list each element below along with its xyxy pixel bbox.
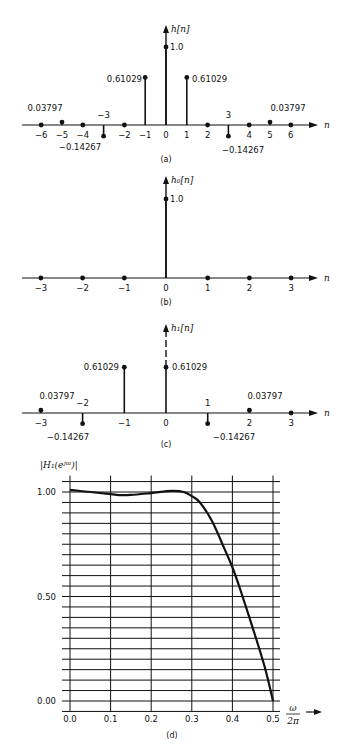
x-axis-label-numerator: ω [289, 703, 297, 713]
stem-marker [39, 408, 44, 413]
value-label: 0.61029 [192, 74, 227, 84]
stem-marker [268, 120, 273, 125]
x-axis-label: n [324, 408, 330, 418]
value-label: −0.14267 [59, 142, 101, 152]
x-axis-label-denominator: 2π [286, 716, 300, 726]
x-tick-label: 0.0 [63, 714, 77, 724]
value-label: 0.03797 [247, 391, 282, 401]
panel-caption: (b) [160, 298, 171, 307]
y-axis-label: h₀[n] [171, 175, 194, 185]
value-label: 1.0 [170, 194, 184, 204]
y-axis-arrow-icon [163, 324, 169, 332]
stem-marker [39, 276, 44, 281]
stem-marker [288, 123, 293, 128]
stem-marker [143, 75, 148, 80]
panel-d-magnitude-response: 0.000.501.000.00.10.20.30.40.5|H₁(eʲᵚ)|ω… [37, 460, 322, 740]
y-axis-label: h₁[n] [171, 323, 194, 333]
stem-marker [80, 123, 85, 128]
x-tick-label: 6 [288, 130, 293, 140]
stem-marker [80, 276, 85, 281]
x-tick-label: 0.5 [266, 714, 280, 724]
x-tick-label: 0.3 [185, 714, 199, 724]
figure-canvas: nh[n]−6−5−4−2−1012456−330.037970.03797−0… [0, 0, 344, 748]
value-label: 0.03797 [27, 103, 62, 113]
x-tick-label: 1 [184, 130, 189, 140]
stem-marker [247, 123, 252, 128]
x-tick-label: 2 [205, 130, 210, 140]
x-tick-label: −2 [76, 283, 89, 293]
x-tick-label: −1 [118, 418, 131, 428]
stem-marker [205, 421, 210, 426]
stem-marker [122, 123, 127, 128]
stem-marker [101, 134, 106, 139]
x-axis-arrow-icon [314, 709, 322, 715]
y-tick-label: 1.00 [37, 487, 56, 497]
x-tick-label: 4 [246, 130, 251, 140]
x-axis-label: n [324, 120, 330, 130]
x-tick-label: −2 [118, 130, 131, 140]
x-tick-label: −3 [97, 110, 110, 120]
value-label: 0.61029 [107, 74, 142, 84]
stem-marker [289, 411, 294, 416]
stem-marker [122, 365, 127, 370]
stem-marker [247, 408, 252, 413]
value-label: 1.0 [170, 42, 184, 52]
value-label: 0.03797 [270, 103, 305, 113]
panel-b-stem-plot: nh₀[n]−3−2−101231.0(b) [22, 175, 330, 307]
x-tick-label: −6 [35, 130, 48, 140]
x-tick-label: −4 [77, 130, 90, 140]
stem-marker [164, 45, 169, 50]
stem-marker [226, 134, 231, 139]
x-axis-arrow-icon [309, 275, 318, 281]
value-label: 0.61029 [172, 362, 207, 372]
y-axis-arrow-icon [163, 25, 169, 33]
x-tick-label: 0 [163, 283, 168, 293]
x-tick-label: −3 [35, 283, 48, 293]
x-tick-label: 0 [163, 130, 168, 140]
stem-marker [164, 365, 169, 370]
x-tick-label: 3 [226, 110, 231, 120]
stem-marker [39, 123, 44, 128]
stem-marker [205, 123, 210, 128]
panel-c-stem-plot: nh₁[n]−3−1023−210.037970.03797−0.14267−0… [22, 323, 330, 449]
x-tick-label: 1 [205, 398, 210, 408]
x-tick-label: −2 [76, 398, 89, 408]
x-tick-label: 3 [288, 283, 293, 293]
value-label: 0.61029 [84, 362, 119, 372]
x-tick-label: −1 [139, 130, 152, 140]
stem-marker [289, 276, 294, 281]
x-tick-label: 5 [267, 130, 272, 140]
x-axis-arrow-icon [309, 122, 318, 128]
stem-marker [205, 276, 210, 281]
x-tick-label: 0 [163, 418, 168, 428]
x-tick-label: 2 [247, 283, 252, 293]
panel-caption: (d) [166, 731, 177, 740]
stem-marker [184, 75, 189, 80]
stem-marker [247, 276, 252, 281]
x-tick-label: 3 [288, 418, 293, 428]
panel-caption: (c) [161, 440, 172, 449]
value-label: −0.14267 [222, 145, 264, 155]
stem-marker [122, 276, 127, 281]
x-tick-label: −5 [56, 130, 69, 140]
stem-marker [80, 421, 85, 426]
x-tick-label: −3 [35, 418, 48, 428]
value-label: −0.14267 [213, 432, 255, 442]
x-tick-label: 1 [205, 283, 210, 293]
x-tick-label: 0.4 [226, 714, 240, 724]
x-tick-label: 0.2 [144, 714, 158, 724]
value-label: −0.14267 [47, 432, 89, 442]
panel-caption: (a) [160, 155, 171, 164]
x-axis-label: n [324, 273, 330, 283]
stem-marker [60, 120, 65, 125]
y-axis-arrow-icon [163, 176, 169, 184]
y-tick-label: 0.00 [37, 696, 56, 706]
stem-marker [164, 197, 169, 202]
y-tick-label: 0.50 [37, 592, 56, 602]
x-tick-label: −1 [118, 283, 131, 293]
y-axis-label: h[n] [171, 24, 190, 34]
x-tick-label: 2 [247, 418, 252, 428]
y-axis-label: |H₁(eʲᵚ)| [40, 460, 78, 471]
value-label: 0.03797 [39, 391, 74, 401]
x-axis-arrow-icon [309, 410, 318, 416]
